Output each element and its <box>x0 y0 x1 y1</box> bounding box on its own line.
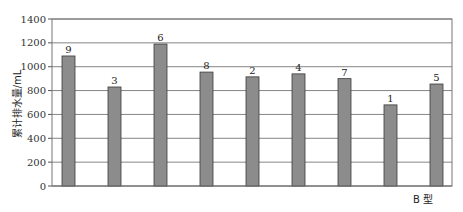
bar-data-label: 5 <box>433 72 439 83</box>
y-tick-label: 400 <box>27 133 46 144</box>
bar <box>200 72 213 186</box>
y-axis-label: 累计排水量/mL <box>11 69 23 138</box>
bar-data-label: 4 <box>295 62 301 73</box>
bar <box>108 87 121 186</box>
bar-data-label: 2 <box>249 65 255 76</box>
y-tick-label: 1000 <box>21 61 46 72</box>
bar <box>62 56 75 186</box>
bar-data-label: 1 <box>387 93 393 104</box>
bar <box>154 44 167 186</box>
bar <box>246 77 259 186</box>
bar <box>430 84 443 186</box>
y-tick-label: 1200 <box>21 37 46 48</box>
bar <box>292 74 305 186</box>
bar-data-label: 9 <box>65 44 71 55</box>
bars: 936824715 <box>62 32 443 186</box>
y-tick-label: 0 <box>40 181 46 192</box>
bar-data-label: 7 <box>341 67 347 78</box>
y-tick-label: 200 <box>27 157 46 168</box>
bar <box>384 105 397 186</box>
y-axis-ticks: 0200400600800100012001400 <box>21 14 52 192</box>
bar-chart: 0200400600800100012001400 936824715 累计排水… <box>0 0 463 212</box>
bar-data-label: 3 <box>111 75 117 86</box>
y-tick-label: 800 <box>27 85 46 96</box>
y-tick-label: 600 <box>27 109 46 120</box>
bar-data-label: 6 <box>157 32 163 43</box>
x-axis-label: B 型 <box>413 193 433 205</box>
y-tick-label: 1400 <box>21 14 46 25</box>
bar-data-label: 8 <box>203 60 209 71</box>
bar <box>338 79 351 186</box>
